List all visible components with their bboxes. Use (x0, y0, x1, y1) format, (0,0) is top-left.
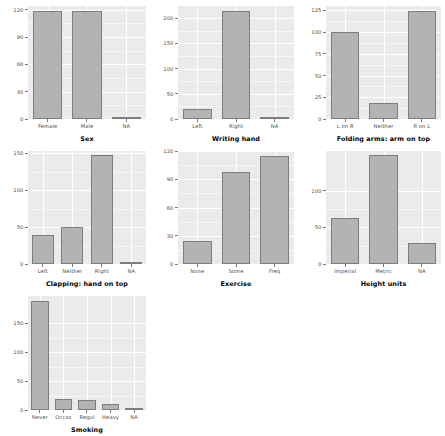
bar-left[interactable] (32, 235, 54, 264)
y-tick-label: 0 (20, 261, 28, 267)
y-tick-label: 30 (167, 233, 178, 239)
x-tick-label: Neither (62, 268, 82, 274)
plot-area: 050100150 (2, 296, 146, 410)
chart-panel-clapping[interactable]: 050100150LeftNeitherRightNAClapping: han… (0, 145, 150, 290)
x-tick-mark (72, 264, 73, 267)
x-tick-label: Male (81, 123, 94, 129)
bar-na[interactable] (408, 243, 436, 264)
y-tick-label: 150 (163, 40, 178, 46)
bar-none[interactable] (183, 241, 212, 264)
bar-slot (178, 151, 217, 264)
y-tick-label: 120 (163, 148, 178, 154)
x-tick: Left (178, 119, 217, 135)
bar-na[interactable] (120, 262, 142, 264)
bar-series (28, 151, 146, 264)
x-tick: Heavy (99, 410, 123, 426)
chart-panel-sex[interactable]: 0306090120FemaleMaleNASex (0, 0, 150, 145)
bar-slot (403, 6, 441, 119)
plot-area: 050100 (300, 151, 441, 264)
bar-na[interactable] (260, 117, 289, 119)
plot-area: 0255075100125 (300, 6, 441, 119)
x-tick-mark (197, 119, 198, 122)
y-axis: 0306090120 (152, 151, 178, 264)
x-tick: Male (67, 119, 106, 135)
bar-female[interactable] (33, 11, 62, 119)
x-tick: NA (107, 119, 146, 135)
x-tick-label: NA (418, 268, 426, 274)
x-tick-label: Some (228, 268, 243, 274)
bar-neither[interactable] (61, 227, 83, 264)
x-tick: NA (117, 264, 147, 280)
chart-smoking: 050100150NeverOccasRegulHeavyNASmoking (2, 296, 146, 434)
bar-slot (99, 296, 123, 410)
x-axis-title: Exercise (178, 280, 294, 288)
bar-slot (217, 151, 256, 264)
x-tick: Freq (255, 264, 294, 280)
x-axis-title: Height units (326, 280, 441, 288)
panel-background (28, 296, 146, 410)
bar-series (28, 296, 146, 410)
bar-male[interactable] (72, 11, 101, 119)
y-tick-label: 60 (167, 205, 178, 211)
chart-panel-writing-hand[interactable]: 050100150200LeftRightNAWriting hand (150, 0, 298, 145)
empty-cell-1 (150, 290, 298, 436)
bar-slot (67, 6, 106, 119)
plot-area: 0306090120 (2, 6, 146, 119)
x-tick-mark (236, 119, 237, 122)
panel-background (326, 151, 441, 264)
x-tick: Right (217, 119, 256, 135)
bar-left[interactable] (183, 109, 212, 119)
x-tick-label: Occas (55, 414, 71, 420)
chart-panel-exercise[interactable]: 0306090120NoneSomeFreqExercise (150, 145, 298, 290)
x-axis-title: Writing hand (178, 135, 294, 143)
bar-r-on-l[interactable] (408, 11, 436, 119)
y-tick-label: 0 (20, 407, 28, 413)
chart-panel-height-units[interactable]: 050100ImperialMetricNAHeight units (298, 145, 445, 290)
bar-na[interactable] (125, 408, 142, 410)
y-axis: 050100150 (2, 151, 28, 264)
x-tick-mark (197, 264, 198, 267)
x-tick: Metric (364, 264, 402, 280)
bar-na[interactable] (112, 117, 141, 119)
bar-slot (28, 6, 67, 119)
bar-heavy[interactable] (102, 404, 119, 410)
panel-background (28, 6, 146, 119)
y-tick-label: 0 (318, 116, 326, 122)
plot-area: 0306090120 (152, 151, 294, 264)
bar-slot (75, 296, 99, 410)
y-tick-label: 50 (17, 378, 28, 384)
bar-occas[interactable] (55, 399, 72, 410)
bar-metric[interactable] (369, 155, 397, 264)
x-tick-label: Heavy (102, 414, 119, 420)
x-tick-mark (131, 264, 132, 267)
panel-background (28, 151, 146, 264)
bar-never[interactable] (31, 301, 48, 410)
bar-some[interactable] (222, 172, 251, 264)
x-tick-mark (345, 119, 346, 122)
x-tick-mark (345, 264, 346, 267)
bar-slot (52, 296, 76, 410)
chart-panel-smoking[interactable]: 050100150NeverOccasRegulHeavyNASmoking (0, 290, 150, 436)
bar-neither[interactable] (369, 103, 397, 119)
bar-freq[interactable] (260, 156, 289, 264)
x-axis: L on RNeitherR on L (326, 119, 441, 135)
chart-writing-hand: 050100150200LeftRightNAWriting hand (152, 6, 294, 143)
x-tick-mark (110, 410, 111, 413)
x-tick: None (178, 264, 217, 280)
bar-right[interactable] (222, 11, 251, 119)
x-tick-mark (383, 264, 384, 267)
bar-slot (107, 6, 146, 119)
chart-panel-folding-arms[interactable]: 0255075100125L on RNeitherR on LFolding … (298, 0, 445, 145)
facet-grid: 0306090120FemaleMaleNASex 050100150200Le… (0, 0, 445, 436)
bar-l-on-r[interactable] (331, 32, 359, 119)
x-tick-label: Right (229, 123, 243, 129)
x-axis: LeftNeitherRightNA (28, 264, 146, 280)
y-tick-label: 150 (13, 150, 28, 156)
y-tick-label: 150 (13, 320, 28, 326)
bar-slot (217, 6, 256, 119)
bar-imperial[interactable] (331, 218, 359, 264)
bar-right[interactable] (91, 155, 113, 264)
x-tick: Regul (75, 410, 99, 426)
bar-regul[interactable] (78, 400, 95, 410)
y-tick-label: 50 (167, 91, 178, 97)
